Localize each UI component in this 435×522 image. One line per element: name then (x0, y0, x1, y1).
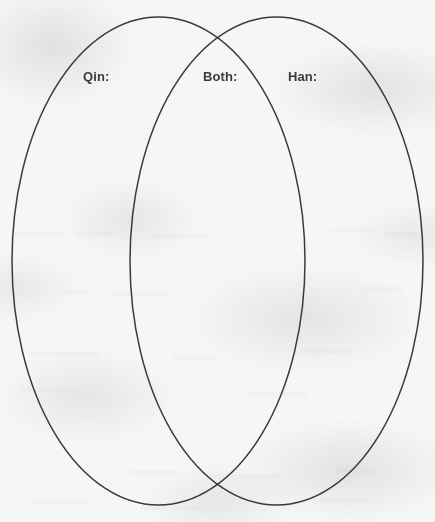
venn-label-left-set: Qin: (83, 70, 109, 83)
venn-diagram-worksheet: Qin: Both: Han: (0, 0, 435, 522)
venn-circle-right[interactable] (130, 17, 423, 505)
venn-circle-left[interactable] (12, 17, 305, 505)
venn-label-right-set: Han: (288, 70, 317, 83)
paper-showthrough-marks (14, 228, 418, 510)
venn-label-intersection: Both: (203, 70, 237, 83)
